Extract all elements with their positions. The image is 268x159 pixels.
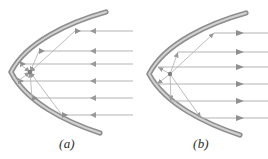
reflected-rays-a [18,31,75,115]
panel-a: (a) [0,0,134,159]
panel-a-label: (a) [0,136,134,152]
focal-point-a [28,70,32,74]
mirror-surface-b [149,13,246,135]
panel-b: (b) [134,0,268,159]
outgoing-ray-arrowheads-b [236,30,244,121]
diverging-ray-1 [170,33,214,74]
diverging-ray-4 [157,74,170,84]
parabolic-mirror-figure: (a) [0,0,268,159]
incoming-ray-midarrows-a [90,28,96,118]
reflected-ray-2 [30,51,39,72]
reflected-ray-4 [18,72,30,81]
panel-b-label: (b) [134,136,268,152]
diverging-rays-b [157,33,214,118]
focal-point-b [168,72,172,76]
